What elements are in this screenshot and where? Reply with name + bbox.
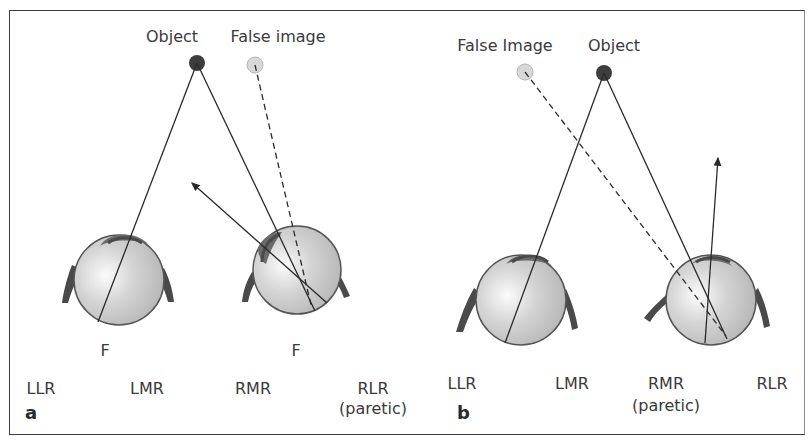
paretic-note-b: (paretic) — [632, 397, 700, 415]
muscle-label-rlr-a: RLR — [357, 380, 388, 398]
false-image-label-b: False Image — [457, 37, 552, 55]
muscle-label-lmr-b: LMR — [555, 375, 589, 393]
false-image-label-a: False image — [230, 28, 325, 46]
object-label-b: Object — [588, 37, 640, 55]
paretic-note-a: (paretic) — [339, 400, 407, 418]
left-eye-b — [456, 255, 578, 345]
fixation-label-right-a: F — [291, 342, 300, 360]
right-eye-b — [644, 255, 770, 345]
fixation-label-left-a: F — [100, 342, 109, 360]
muscle-label-llr-b: LLR — [448, 375, 477, 393]
muscle-label-rlr-b: RLR — [756, 375, 787, 393]
muscle-label-rmr-a: RMR — [235, 380, 271, 398]
muscle-label-rmr-b: RMR — [648, 375, 684, 393]
left-eye-a — [62, 234, 174, 325]
diplopia-diagram — [0, 0, 808, 445]
muscle-label-lmr-a: LMR — [130, 380, 164, 398]
panel-letter-b: b — [457, 402, 470, 423]
object-label-a: Object — [146, 28, 198, 46]
panel-letter-a: a — [25, 402, 37, 423]
muscle-label-llr-a: LLR — [27, 380, 56, 398]
